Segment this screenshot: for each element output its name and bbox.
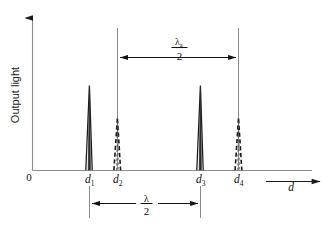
x-axis-variable-label: d — [288, 181, 294, 193]
tick-sub-d4: 4 — [240, 179, 244, 188]
tick-sub-d3: 3 — [202, 179, 206, 188]
tick-sub-d1: 1 — [91, 179, 95, 188]
figure-container: λa 2 λ 2 Output light 0 d1 d2 d3 d4 d — [0, 0, 334, 227]
tick-sub-d2: 2 — [119, 179, 123, 188]
y-axis-label: Output light — [9, 67, 21, 123]
output-light-vs-displacement-chart: λa 2 λ 2 Output light 0 d1 d2 d3 d4 d — [0, 0, 334, 227]
lambda-numerator: λ — [144, 193, 149, 204]
origin-label: 0 — [26, 171, 32, 183]
lambda-a-denominator: 2 — [177, 50, 183, 62]
lambda-subscript-a: a — [180, 41, 183, 48]
lambda-denominator: 2 — [144, 205, 150, 217]
